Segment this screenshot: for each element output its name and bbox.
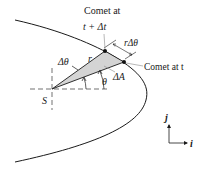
unit-i-label: i — [190, 138, 193, 149]
comet-orbit-diagram: Comet at t + Δt rΔθ Comet at t Δθ r θ ΔA… — [0, 0, 205, 175]
unit-j-arrowhead — [167, 124, 171, 128]
comet-later-point — [103, 49, 107, 53]
delta-theta-label: Δθ — [57, 56, 69, 67]
comet-later-label-2: t + Δt — [83, 21, 106, 32]
comet-later-leader — [104, 34, 105, 49]
theta-label: θ — [102, 76, 107, 87]
comet-now-label: Comet at t — [144, 62, 184, 72]
unit-i-arrowhead — [184, 141, 188, 145]
sun-label: S — [42, 95, 47, 106]
arc-length-label: rΔθ — [124, 38, 138, 48]
radius-label: r — [88, 53, 92, 64]
comet-later-label-1: Comet at — [84, 5, 121, 16]
delta-theta-leader — [72, 66, 78, 70]
unit-j-label: j — [163, 112, 168, 123]
comet-now-point — [122, 60, 126, 64]
area-label: ΔA — [112, 71, 126, 82]
